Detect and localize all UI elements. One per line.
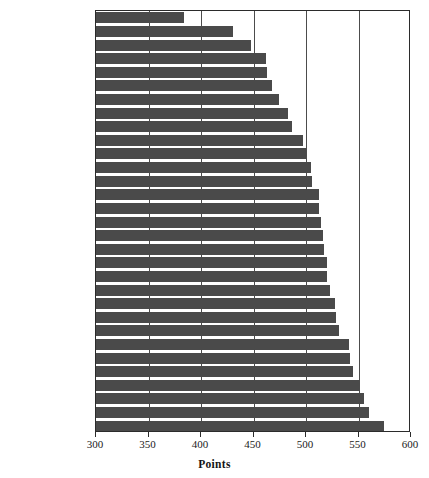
y-axis-tick bbox=[95, 85, 96, 86]
bar-row: Portugal bbox=[96, 53, 410, 64]
bar bbox=[96, 80, 272, 91]
y-axis-tick bbox=[95, 194, 96, 195]
y-axis-tick bbox=[95, 45, 96, 46]
plot-area: BrazilMexicoLuxembourgPortugalLatviaRuss… bbox=[95, 10, 410, 432]
bar-row: Latvia bbox=[96, 67, 410, 78]
x-axis-tick-label: 400 bbox=[180, 438, 220, 451]
bar-row: Liechtenstein bbox=[96, 108, 410, 119]
bar bbox=[96, 421, 384, 432]
bar bbox=[96, 380, 360, 391]
y-axis-tick bbox=[95, 371, 96, 372]
x-axis-title: Points bbox=[0, 458, 429, 470]
bar bbox=[96, 217, 321, 228]
bar bbox=[96, 108, 288, 119]
x-axis-tick bbox=[148, 432, 149, 437]
bar bbox=[96, 298, 335, 309]
bar bbox=[96, 325, 339, 336]
bar-row: Austria bbox=[96, 325, 410, 336]
bar-row: Denmark bbox=[96, 135, 410, 146]
y-axis-tick bbox=[95, 385, 96, 386]
x-axis-tick bbox=[95, 432, 96, 437]
bar bbox=[96, 393, 364, 404]
bar bbox=[96, 176, 312, 187]
bar bbox=[96, 53, 266, 64]
bar bbox=[96, 312, 336, 323]
bar bbox=[96, 366, 353, 377]
y-axis-tick bbox=[95, 412, 96, 413]
bar-row: Poland bbox=[96, 148, 410, 159]
bar-row: Finland bbox=[96, 393, 410, 404]
bar-row: Spain bbox=[96, 176, 410, 187]
y-axis-tick bbox=[95, 344, 96, 345]
bar-row: Luxembourg bbox=[96, 40, 410, 51]
y-axis-tick bbox=[95, 290, 96, 291]
bar bbox=[96, 67, 267, 78]
bar-row: Iceland bbox=[96, 217, 410, 228]
bar bbox=[96, 230, 323, 241]
y-axis-tick bbox=[95, 317, 96, 318]
bar bbox=[96, 244, 324, 255]
bar bbox=[96, 285, 330, 296]
bar-row: Greece bbox=[96, 94, 410, 105]
y-axis-tick bbox=[95, 58, 96, 59]
bar bbox=[96, 135, 303, 146]
y-axis-tick bbox=[95, 303, 96, 304]
bar-row: Sweden bbox=[96, 298, 410, 309]
y-axis-tick bbox=[95, 153, 96, 154]
y-axis-tick bbox=[95, 208, 96, 209]
x-axis-tick bbox=[410, 432, 411, 437]
bar-row: Ireland bbox=[96, 312, 410, 323]
x-axis-tick-label: 550 bbox=[338, 438, 378, 451]
bar bbox=[96, 203, 319, 214]
bar-row: Belgium bbox=[96, 203, 410, 214]
bar-row: Czech. Rep. bbox=[96, 285, 410, 296]
x-axis-tick-label: 600 bbox=[390, 438, 429, 451]
y-axis-tick bbox=[95, 235, 96, 236]
y-axis-tick bbox=[95, 31, 96, 32]
bar-row: Canada bbox=[96, 366, 410, 377]
x-axis-tick bbox=[358, 432, 359, 437]
y-axis-tick bbox=[95, 167, 96, 168]
y-axis-tick bbox=[95, 113, 96, 114]
y-axis-tick bbox=[95, 72, 96, 73]
y-axis-tick bbox=[95, 17, 96, 18]
y-axis-tick bbox=[95, 181, 96, 182]
y-axis-tick bbox=[95, 99, 96, 100]
y-axis-tick bbox=[95, 276, 96, 277]
bar-row: Italy bbox=[96, 121, 410, 132]
y-axis-tick bbox=[95, 249, 96, 250]
bar-row: USA bbox=[96, 244, 410, 255]
y-axis-tick bbox=[95, 262, 96, 263]
y-axis-tick bbox=[95, 126, 96, 127]
bar-chart: BrazilMexicoLuxembourgPortugalLatviaRuss… bbox=[0, 0, 429, 478]
bar-row: U.K. bbox=[96, 380, 410, 391]
bar-row: Japan bbox=[96, 407, 410, 418]
bar-row: Brazil bbox=[96, 12, 410, 23]
y-axis-tick bbox=[95, 330, 96, 331]
bar-row: France bbox=[96, 271, 410, 282]
bar bbox=[96, 271, 327, 282]
bar bbox=[96, 12, 184, 23]
x-axis-tick-label: 350 bbox=[128, 438, 168, 451]
bar bbox=[96, 148, 306, 159]
x-axis-tick-label: 500 bbox=[285, 438, 325, 451]
bar-row: Hungary bbox=[96, 230, 410, 241]
bar bbox=[96, 94, 279, 105]
bar-row: Russia bbox=[96, 80, 410, 91]
bar-row: Norway bbox=[96, 257, 410, 268]
y-axis-tick bbox=[95, 222, 96, 223]
x-axis-tick bbox=[200, 432, 201, 437]
bar bbox=[96, 189, 319, 200]
bar-row: New Zealand bbox=[96, 353, 410, 364]
bar-row: Switzerland bbox=[96, 189, 410, 200]
bar-row: Korea bbox=[96, 421, 410, 432]
bar-row: Mexico bbox=[96, 26, 410, 37]
y-axis-tick bbox=[95, 398, 96, 399]
bar bbox=[96, 40, 251, 51]
y-axis-tick bbox=[95, 140, 96, 141]
bar bbox=[96, 257, 327, 268]
x-axis-tick bbox=[253, 432, 254, 437]
y-axis-tick bbox=[95, 358, 96, 359]
bar-row: Australia bbox=[96, 339, 410, 350]
x-axis-tick-label: 300 bbox=[75, 438, 115, 451]
